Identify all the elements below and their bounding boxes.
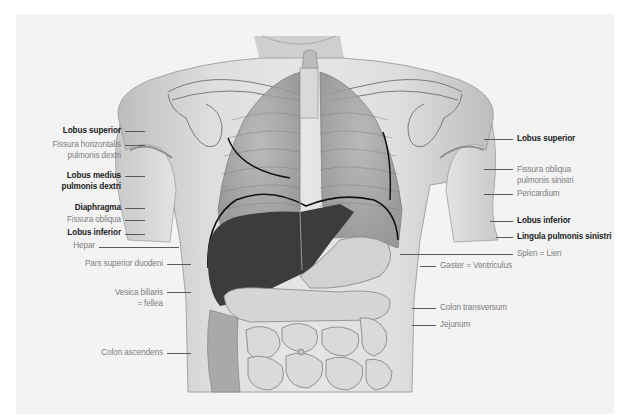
leader-line [484,194,513,195]
leader-line [125,234,145,235]
leader-line [125,145,145,146]
leader-line [167,353,191,354]
leader-line [125,131,145,132]
leader-line [167,292,191,293]
leader-line [496,237,513,238]
label-lingula: Lingula pulmonis sinistri [517,232,611,243]
leader-line [125,176,145,177]
label-splen: Splen = Lien [517,249,562,260]
leader-line [125,208,145,209]
label-lobus-inferior-left: Lobus inferior [517,216,571,227]
transverse-colon [224,288,390,322]
leader-line [490,221,513,222]
leader-line [484,169,513,170]
leader-line [484,139,513,140]
leader-line [420,266,436,267]
label-gaster: Gaster = Ventriculus [440,261,512,272]
label-colon-ascendens: Colon ascendens [101,348,163,359]
leader-line [412,325,436,326]
leader-line [99,247,179,248]
leader-line [125,220,145,221]
label-lobus-inferior-right: Lobus inferior [67,228,121,239]
leader-line [412,308,436,309]
label-fissura-obliqua-right: Fissura obliqua [67,215,121,226]
label-lobus-superior-left: Lobus superior [517,134,575,145]
label-diaphragma: Diaphragma [75,203,121,214]
leader-line [400,254,513,255]
label-fissura-obliqua-left: Fissura obliquapulmonis sinistri [517,165,574,186]
leader-line [167,264,191,265]
label-jejunum: Jejunum [440,320,470,331]
label-lobus-medius: Lobus mediuspulmonis dextri [62,171,121,192]
label-lobus-superior-right: Lobus superior [63,126,121,137]
label-colon-transversum: Colon transversum [440,303,507,314]
label-hepar: Hepar [73,241,95,252]
label-pericardium: Pericardium [517,189,560,200]
label-vesica-biliaris: Vesica biliaris= fellea [115,288,163,309]
label-pars-superior-duodeni: Pars superior duodeni [85,259,163,270]
label-fissura-horizontalis: Fissura horizontalispulmonis dextri [52,140,121,161]
ascending-colon [207,310,240,392]
